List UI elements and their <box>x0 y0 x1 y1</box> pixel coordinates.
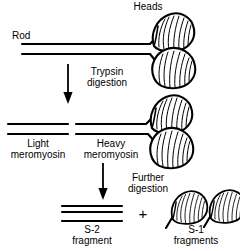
heads-label: Heads <box>134 1 163 12</box>
s1-fragments-group <box>166 190 240 228</box>
hmm-upper-line <box>76 110 160 124</box>
s1-fragment-left <box>166 191 207 228</box>
figure-canvas <box>0 0 240 251</box>
light-meromyosin-label-line1: Light <box>27 138 49 149</box>
myosin-head-mid-lower <box>150 128 193 168</box>
light-meromyosin-group <box>8 124 68 134</box>
heavy-meromyosin-label-line2: meromyosin <box>84 149 138 160</box>
light-meromyosin-label-line2: meromyosin <box>11 149 65 160</box>
myosin-head-top-upper <box>153 13 195 51</box>
s2-fragment-label-line1: S-2 <box>84 224 100 235</box>
s2-fragment-group <box>62 206 122 221</box>
further-digestion-label-line1: Further <box>132 172 164 183</box>
further-digestion-label-line2: digestion <box>128 183 168 194</box>
s1-fragment-right <box>204 190 240 227</box>
trypsin-label-line2: digestion <box>87 77 127 88</box>
further-digestion-arrow-icon <box>98 163 107 200</box>
s1-fragments-label-line1: S-1 <box>188 224 204 235</box>
rod-label: Rod <box>12 30 30 41</box>
trypsin-arrow-icon <box>63 64 72 104</box>
myosin-digestion-figure: Heads Rod Trypsin digestion Light meromy… <box>0 0 240 251</box>
plus-sign: + <box>139 205 148 222</box>
heavy-meromyosin-label-line1: Heavy <box>97 138 125 149</box>
s1-fragments-label-line2: fragments <box>174 235 218 246</box>
s2-fragment-label-line2: fragment <box>72 235 111 246</box>
trypsin-label-line1: Trypsin <box>91 66 123 77</box>
rod-upper-line <box>22 30 163 44</box>
myosin-head-top-lower <box>152 48 195 88</box>
